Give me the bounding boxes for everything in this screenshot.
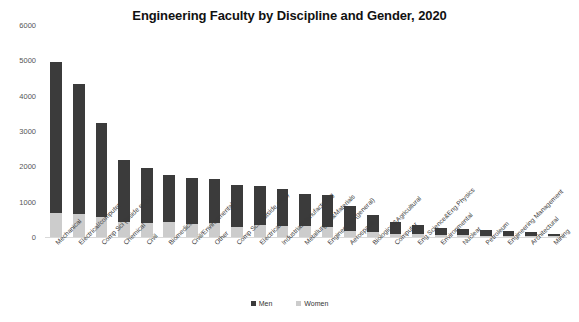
legend-label: Men xyxy=(259,300,273,307)
bar-segment-men[interactable] xyxy=(163,175,175,222)
legend-swatch-icon xyxy=(296,301,301,306)
x-axis-labels: MechanicalElectrical/computerComp Sci (i… xyxy=(0,239,579,299)
legend-item[interactable]: Women xyxy=(296,300,328,307)
bar-column[interactable] xyxy=(50,62,62,237)
bar-column[interactable] xyxy=(231,185,243,237)
y-axis: 0100020003000400050006000 xyxy=(0,25,40,237)
y-axis-tick-label: 6000 xyxy=(19,21,36,30)
plot-area xyxy=(45,25,565,237)
y-axis-tick-label: 3000 xyxy=(19,127,36,136)
chart-legend: MenWomen xyxy=(0,300,579,307)
y-axis-tick-label: 1000 xyxy=(19,197,36,206)
bar-column[interactable] xyxy=(163,175,175,237)
bar-segment-men[interactable] xyxy=(186,178,198,224)
chart-container: Engineering Faculty by Discipline and Ge… xyxy=(0,0,579,322)
y-axis-tick-label: 2000 xyxy=(19,162,36,171)
bar-segment-men[interactable] xyxy=(50,62,62,213)
chart-title: Engineering Faculty by Discipline and Ge… xyxy=(0,8,579,23)
y-axis-tick-label: 4000 xyxy=(19,91,36,100)
legend-swatch-icon xyxy=(251,301,256,306)
bar-series-group xyxy=(45,25,565,237)
legend-label: Women xyxy=(304,300,328,307)
bar-column[interactable] xyxy=(73,84,85,237)
y-axis-tick-label: 5000 xyxy=(19,56,36,65)
legend-item[interactable]: Men xyxy=(251,300,273,307)
bar-segment-men[interactable] xyxy=(73,84,85,215)
bar-segment-men[interactable] xyxy=(96,123,108,216)
